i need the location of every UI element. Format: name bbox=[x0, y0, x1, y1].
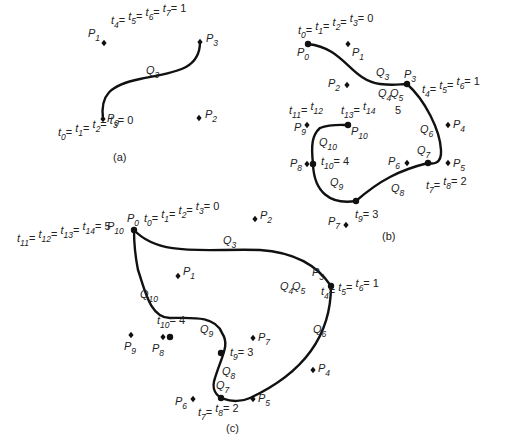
knot-dot bbox=[167, 334, 173, 340]
control-point-marker bbox=[343, 222, 348, 228]
panel-caption: (b) bbox=[382, 230, 395, 242]
control-point-label: P6 bbox=[175, 395, 187, 411]
control-point-label: P2 bbox=[260, 209, 272, 225]
segment-label: Q9 bbox=[330, 176, 344, 192]
segment-label: Q6 bbox=[420, 123, 434, 139]
control-point-label: P8 bbox=[290, 157, 302, 173]
knot-equation: t9= 3 bbox=[355, 208, 378, 224]
control-point-label: P1 bbox=[88, 27, 100, 43]
knot-markers bbox=[305, 41, 431, 204]
control-point-marker bbox=[445, 160, 450, 166]
control-point-label: P2 bbox=[328, 77, 340, 93]
b-spline-figure: P0P1P2P3 Q3 t0= t1= t2= t3= 0t4= t5= t6=… bbox=[0, 0, 509, 447]
panel-caption: (a) bbox=[113, 151, 126, 163]
knot-dot bbox=[305, 41, 311, 47]
segment-label: Q10 bbox=[140, 288, 158, 304]
knot-equation: t9= 3 bbox=[230, 346, 253, 362]
panel-a: P0P1P2P3 Q3 t0= t1= t2= t3= 0t4= t5= t6=… bbox=[58, 2, 218, 163]
control-point-label: P8 bbox=[152, 342, 164, 358]
control-point-marker bbox=[128, 332, 133, 338]
segment-label: Q5 bbox=[292, 280, 306, 296]
knot-value-labels: t0= t1= t2= t3= 0t4= t5= t6= t7= 1 bbox=[58, 2, 186, 142]
segment-label: Q7 bbox=[216, 379, 230, 395]
control-point-label: P0 bbox=[297, 46, 309, 62]
segment-label: Q3 bbox=[223, 234, 237, 250]
control-point-label: P2 bbox=[205, 108, 217, 124]
knot-equation: t4= t5= t6= 1 bbox=[422, 75, 480, 99]
knot-dot bbox=[218, 395, 224, 401]
control-point-label: P7 bbox=[258, 331, 270, 347]
segment-label: Q9 bbox=[200, 323, 214, 339]
control-point-marker bbox=[252, 216, 257, 222]
segment-label: Q10 bbox=[319, 136, 337, 152]
knot-value-labels: t0= t1= t2= t3= 0t4= t5= t6= 1t7= t8= 2t… bbox=[289, 12, 480, 224]
knot-dot bbox=[310, 161, 316, 167]
control-point-marker bbox=[250, 335, 255, 341]
segment-label: Q8 bbox=[391, 182, 405, 198]
knot-dot bbox=[345, 122, 351, 128]
control-point-marker bbox=[196, 115, 201, 121]
knot-equation: t0= t1= t2= t3= 0 bbox=[298, 12, 373, 40]
control-point-marker bbox=[345, 41, 350, 47]
segment-label: Q3 bbox=[376, 66, 390, 82]
control-point-marker bbox=[404, 160, 409, 166]
control-point-label: P1 bbox=[352, 46, 364, 62]
panel-caption: (c) bbox=[226, 422, 239, 434]
figure-canvas: P0P1P2P3 Q3 t0= t1= t2= t3= 0t4= t5= t6=… bbox=[0, 0, 509, 447]
knot-equation: t11= t12 bbox=[289, 100, 323, 120]
knot-equation: t13= t14 bbox=[341, 100, 376, 120]
knot-equation: t7= t8= 2 bbox=[426, 175, 467, 195]
control-point-label: P3 bbox=[206, 32, 218, 48]
control-point-label: P6 bbox=[388, 155, 400, 171]
knot-dot bbox=[404, 81, 410, 87]
knot-equation: t7= t8= 2 bbox=[198, 402, 239, 422]
control-point-marker bbox=[310, 367, 315, 373]
control-point-marker bbox=[160, 334, 165, 340]
control-point-label: P9 bbox=[294, 121, 306, 137]
knot-value-labels: t0= t1= t2= t3= 0t11= t12= t13= t14= 5t4… bbox=[17, 200, 379, 422]
panel-b: P0P1P2P3P4P5P6P7P8P9P10 Q3Q4Q5Q6Q7Q8Q9Q1… bbox=[289, 12, 480, 242]
knot-dot bbox=[353, 198, 359, 204]
control-point-marker bbox=[344, 82, 349, 88]
spline-curve bbox=[102, 42, 200, 119]
knot-equation: t10= 4 bbox=[321, 155, 349, 171]
segment-label: Q7 bbox=[417, 144, 431, 160]
panel-c: P0P10P1P2P3P4P5P6P7P8P9 Q3Q4Q5Q6Q7Q8Q9Q1… bbox=[17, 200, 379, 434]
knot-dot bbox=[218, 350, 224, 356]
knot-equation: t0= t1= t2= t3= 0 bbox=[144, 200, 219, 228]
control-point-marker bbox=[445, 122, 450, 128]
control-point-marker bbox=[190, 396, 195, 402]
knot-dot bbox=[425, 160, 431, 166]
control-point-marker bbox=[304, 161, 309, 167]
control-point-marker bbox=[175, 273, 180, 279]
control-point-label: P10 bbox=[351, 125, 368, 141]
knot-equation: t0= t1= t2= t3= 0 bbox=[58, 114, 133, 142]
control-point-label: P7 bbox=[328, 215, 340, 231]
knot-equation: t4= t5= t6= t7= 1 bbox=[111, 2, 186, 30]
control-point-marker bbox=[197, 39, 202, 45]
segment-label: Q5 bbox=[390, 87, 404, 103]
control-point-label: P4 bbox=[318, 362, 330, 378]
control-point-label: P1 bbox=[183, 265, 195, 281]
knot-equation: t11= t12= t13= t14= 5 bbox=[17, 220, 111, 248]
control-point-marker bbox=[101, 40, 106, 46]
control-point-label: P5 bbox=[258, 392, 270, 408]
control-point-label: P3 bbox=[312, 266, 324, 282]
knot-dot bbox=[131, 227, 137, 233]
control-point-label: P5 bbox=[453, 157, 465, 173]
control-point-label: P9 bbox=[124, 340, 136, 356]
control-point-label: P0 bbox=[127, 212, 139, 228]
knot-equation: 5 bbox=[395, 104, 401, 116]
control-point-label: P4 bbox=[453, 118, 465, 134]
